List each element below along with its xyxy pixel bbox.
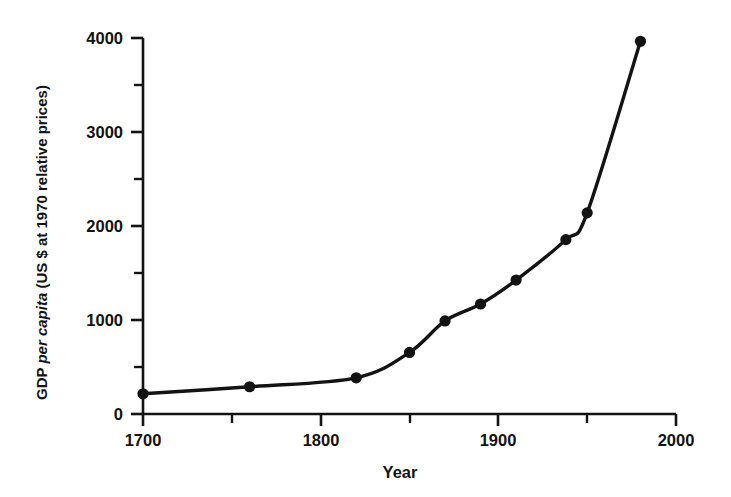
series-line bbox=[143, 41, 640, 394]
data-series bbox=[137, 36, 646, 400]
svg-text:GDP per capita (US $ at 1970 r: GDP per capita (US $ at 1970 relative pr… bbox=[33, 85, 50, 400]
y-tick-label-1000: 1000 bbox=[86, 311, 123, 329]
y-axis-title: GDP per capita (US $ at 1970 relative pr… bbox=[33, 85, 50, 400]
data-point bbox=[439, 315, 450, 326]
y-tick-label-3000: 3000 bbox=[86, 123, 123, 141]
y-axis-title-lead: GDP bbox=[33, 364, 50, 400]
data-point bbox=[404, 347, 415, 358]
data-point bbox=[510, 274, 521, 285]
x-tick-label-1900: 1900 bbox=[480, 431, 517, 449]
gdp-per-capita-figure: 4000 3000 2000 1000 0 GDP per capita (US… bbox=[0, 0, 731, 497]
series-markers bbox=[137, 36, 646, 400]
y-tick-label-2000: 2000 bbox=[86, 217, 123, 235]
data-point bbox=[137, 388, 148, 399]
y-axis-title-trail: (US $ at 1970 relative prices) bbox=[33, 85, 50, 293]
data-point bbox=[244, 381, 255, 392]
x-tick-label-1700: 1700 bbox=[125, 431, 162, 449]
data-point bbox=[582, 207, 593, 218]
x-axis: 1700 1800 1900 2000 Year bbox=[125, 414, 695, 481]
y-axis: 4000 3000 2000 1000 0 bbox=[86, 29, 143, 423]
data-point bbox=[560, 234, 571, 245]
y-tick-label-0: 0 bbox=[114, 405, 123, 423]
x-tick-label-2000: 2000 bbox=[658, 431, 695, 449]
chart-canvas: 4000 3000 2000 1000 0 GDP per capita (US… bbox=[0, 0, 731, 497]
data-point bbox=[635, 36, 646, 47]
data-point bbox=[351, 372, 362, 383]
y-axis-title-italic: per capita bbox=[33, 293, 50, 365]
y-tick-label-4000: 4000 bbox=[86, 29, 123, 47]
x-tick-label-1800: 1800 bbox=[303, 431, 340, 449]
data-point bbox=[475, 298, 486, 309]
x-axis-title: Year bbox=[383, 463, 418, 481]
